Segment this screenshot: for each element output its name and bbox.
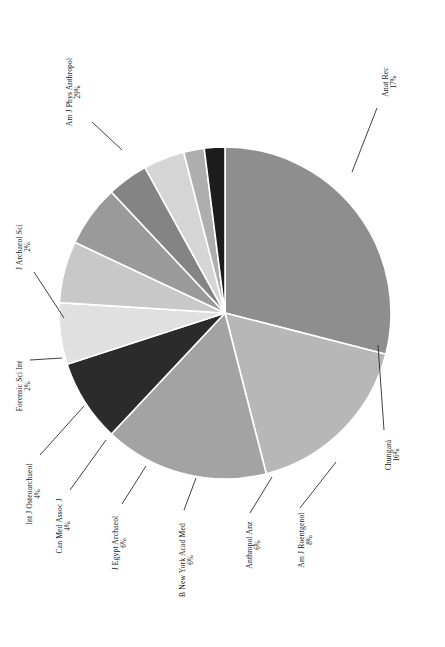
pie-label-percent: 2% — [24, 381, 32, 391]
leader-line — [184, 478, 196, 510]
pie-label-percent: 6% — [120, 538, 128, 548]
pie-label-percent: 16% — [393, 448, 401, 461]
pie-label-group: Anat Rec17% — [381, 67, 398, 97]
pie-label-percent: 2% — [24, 242, 32, 252]
leader-line — [92, 122, 122, 150]
pie-label-name: Int J Osteoarchaeol — [25, 463, 34, 524]
pie-label-name: Am J Phys Anthropol — [65, 58, 74, 126]
pie-label-group: Am J Roentgenol8% — [297, 512, 314, 567]
pie-chart-figure: Am J Phys Anthropol29%Anat Rec17%Chungar… — [0, 0, 445, 647]
pie-label-percent: 4% — [34, 489, 42, 499]
pie-label-name: Forensic Sci Int — [15, 360, 24, 411]
leader-line — [30, 358, 62, 360]
pie-label-percent: 6% — [187, 555, 195, 565]
pie-label-group: Int J Osteoarchaeol4% — [25, 463, 42, 524]
pie-label-name: Anthropol Anz — [245, 521, 254, 569]
pie-label-name: B New York Acad Med — [178, 523, 187, 597]
leader-line — [70, 440, 106, 490]
pie-label-name: J Archaeol Sci — [15, 224, 24, 270]
pie-label-name: Chungará — [384, 439, 393, 470]
pie-label-percent: 6% — [254, 540, 262, 550]
pie-label-name: Can Med Assoc J — [55, 498, 64, 553]
pie-label-name: Am J Roentgenol — [297, 512, 306, 567]
pie-label-group: Can Med Assoc J4% — [55, 498, 72, 553]
pie-label-group: J Egypt Archaeol6% — [111, 516, 128, 571]
pie-slices-group — [59, 147, 391, 479]
pie-label-group: Am J Phys Anthropol29% — [65, 58, 82, 126]
pie-label-percent: 8% — [306, 535, 314, 545]
pie-label-group: Forensic Sci Int2% — [15, 360, 32, 411]
pie-label-group: Anthropol Anz6% — [245, 521, 262, 569]
pie-label-name: Anat Rec — [381, 67, 390, 97]
pie-label-percent: 17% — [390, 75, 398, 88]
leader-line — [352, 108, 377, 172]
leader-line — [40, 406, 84, 455]
pie-label-group: J Archaeol Sci2% — [15, 224, 32, 270]
leader-line — [250, 477, 272, 513]
pie-label-group: Chungará16% — [384, 439, 401, 470]
leader-line — [122, 466, 146, 504]
leader-line — [300, 462, 336, 508]
pie-label-percent: 29% — [74, 85, 82, 98]
pie-label-percent: 4% — [64, 521, 72, 531]
pie-chart-svg: Am J Phys Anthropol29%Anat Rec17%Chungar… — [0, 0, 445, 647]
pie-label-name: J Egypt Archaeol — [111, 516, 120, 571]
pie-label-group: B New York Acad Med6% — [178, 523, 195, 597]
